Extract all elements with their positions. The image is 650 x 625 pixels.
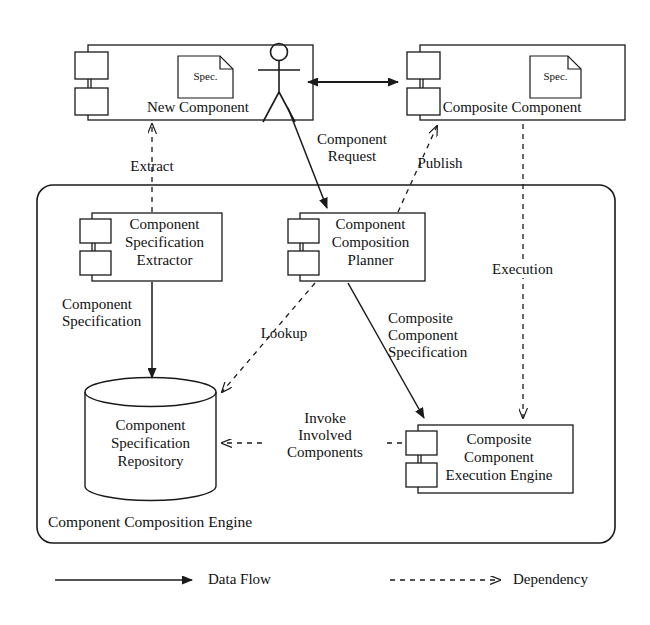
invoke-involved-components-label: Invoke Involved Components <box>265 410 385 461</box>
legend-dependency-label: Dependency <box>513 571 588 588</box>
component-composition-engine-label: Component Composition Engine <box>48 513 252 531</box>
extract-label: Extract <box>117 158 187 175</box>
composite-component-label: Composite Component <box>432 98 592 116</box>
composite-component-execution-engine-label: Composite Component Execution Engine <box>429 430 569 484</box>
composite-component-spec-label: Spec. <box>530 70 581 82</box>
component-specification-label: Component Specification <box>62 296 167 330</box>
new-component-label: New Component <box>118 98 278 116</box>
component-specification-extractor-label: Component Specification Extractor <box>112 215 217 269</box>
component-request-label: Component Request <box>297 131 407 165</box>
component-specification-repository-label: Component Specification Repository <box>88 416 213 470</box>
component-composition-planner-label: Component Composition Planner <box>318 215 423 269</box>
component-composition-diagram: New Component Spec. Composite Component … <box>0 0 650 625</box>
legend-data-flow-label: Data Flow <box>208 571 271 588</box>
publish-label: Publish <box>405 155 475 172</box>
new-component-spec-label: Spec. <box>178 70 233 82</box>
composite-component-specification-label: Composite Component Specification <box>388 310 508 361</box>
lookup-label: Lookup <box>249 325 319 342</box>
execution-label: Execution <box>480 261 565 278</box>
